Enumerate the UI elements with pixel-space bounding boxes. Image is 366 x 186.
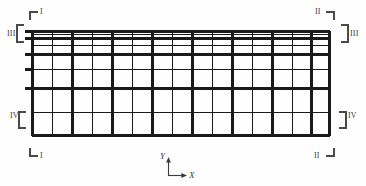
axis-x-arrowhead: [181, 173, 187, 178]
bracket-bottom-right-ii: [326, 148, 334, 156]
mesh-diagram-figure: I II III III IV IV I II Y X: [0, 0, 366, 186]
section-label-left-lower-iv: IV: [10, 112, 19, 120]
section-label-top-right-ii: II: [315, 8, 321, 16]
mesh-horizontal-lines: [32, 32, 330, 136]
section-label-bottom-right-ii: II: [314, 152, 320, 160]
section-label-right-lower-iv: IV: [348, 112, 357, 120]
section-label-bottom-left-i: I: [40, 152, 43, 160]
bracket-left-lower-iv: [19, 112, 26, 128]
mesh-edge-ticks: [25, 32, 32, 89]
section-label-left-upper-iii: III: [7, 30, 16, 38]
bracket-right-lower-iv: [339, 112, 346, 128]
bracket-bottom-left-i: [30, 148, 38, 156]
section-label-right-upper-iii: III: [350, 30, 359, 38]
mesh-vertical-lines: [33, 31, 330, 136]
bracket-top-left-i: [30, 12, 38, 20]
mesh-grid-group: [25, 31, 330, 136]
bracket-left-upper-iii: [17, 25, 24, 42]
mesh-graphic: [0, 0, 366, 186]
bracket-top-right-ii: [326, 12, 334, 20]
axis-y-arrowhead: [166, 157, 171, 163]
coordinate-axes-group: [166, 157, 187, 178]
section-label-top-left-i: I: [40, 8, 43, 16]
axis-label-y: Y: [160, 152, 165, 161]
axis-label-x: X: [189, 171, 195, 180]
bracket-right-upper-iii: [341, 25, 348, 42]
